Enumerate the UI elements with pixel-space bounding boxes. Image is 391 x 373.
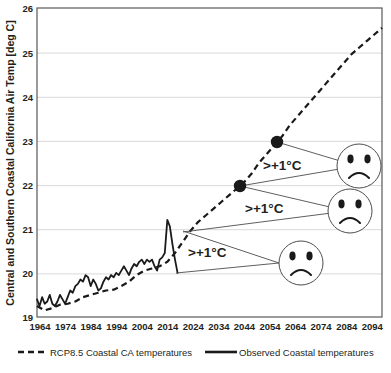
sad-face-upper-icon (337, 144, 381, 188)
x-axis-tick-labels: 1964 1974 1984 1994 2004 2014 2024 2034 … (29, 321, 383, 332)
milestone-dot-2060 (271, 136, 283, 148)
x-tick-2024: 2024 (183, 321, 205, 332)
x-tick-2014: 2014 (157, 321, 179, 332)
y-tick-25: 25 (22, 48, 33, 59)
y-axis-tick-labels: 26 25 24 23 22 21 20 19 (22, 3, 33, 323)
milestone-dot-2044 (234, 180, 246, 192)
x-tick-1994: 1994 (106, 321, 128, 332)
x-tick-1974: 1974 (55, 321, 77, 332)
annotation-delta-middle: >+1°C (245, 201, 284, 216)
x-tick-2074: 2074 (311, 321, 333, 332)
chart-canvas: 26 25 24 23 22 21 20 19 Central and Sout… (0, 0, 391, 373)
climate-projection-chart: 26 25 24 23 22 21 20 19 Central and Sout… (0, 0, 391, 373)
x-tick-2004: 2004 (132, 321, 154, 332)
x-tick-2054: 2054 (259, 321, 281, 332)
y-tick-20: 20 (22, 268, 33, 279)
x-tick-1964: 1964 (29, 321, 51, 332)
y-axis-title: Central and Southern Coastal California … (4, 20, 16, 305)
plot-background (37, 8, 382, 317)
x-tick-2084: 2084 (336, 321, 358, 332)
y-tick-26: 26 (22, 3, 33, 14)
sad-face-middle-icon (328, 189, 372, 233)
sad-face-lower-icon (279, 241, 323, 285)
legend-label-observed: Observed Coastal temperatures (239, 347, 374, 358)
annotation-delta-lower: >+1°C (188, 245, 227, 260)
y-tick-22: 22 (22, 180, 33, 191)
x-tick-2034: 2034 (208, 321, 230, 332)
x-tick-2094: 2094 (362, 321, 384, 332)
y-tick-23: 23 (22, 136, 33, 147)
x-tick-1984: 1984 (81, 321, 103, 332)
legend-label-rcp85: RCP8.5 Coastal CA temperatures (50, 347, 192, 358)
chart-legend: RCP8.5 Coastal CA temperatures Observed … (18, 347, 374, 358)
x-tick-2044: 2044 (234, 321, 256, 332)
y-tick-21: 21 (22, 224, 33, 235)
x-tick-2064: 2064 (285, 321, 307, 332)
y-tick-24: 24 (22, 92, 33, 103)
annotation-delta-upper: >+1°C (263, 158, 302, 173)
